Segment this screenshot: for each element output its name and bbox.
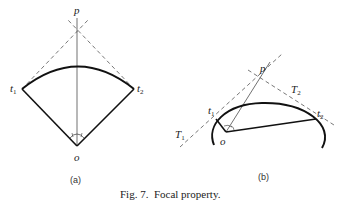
panel-b: p o t1 t2 T1 T2 (b)	[175, 54, 334, 182]
t2-subscript: 2	[320, 113, 324, 121]
point-label-t1: t1	[10, 82, 17, 96]
arc-t1-t2	[22, 67, 134, 90]
panel-a: p o t1 t2 (a)	[10, 4, 144, 185]
t2-subscript: 2	[140, 88, 144, 96]
radius-o-t2	[77, 89, 134, 146]
panel-label-b: (b)	[258, 172, 269, 182]
T2-subscript: 2	[297, 89, 301, 97]
t1-subscript: 1	[211, 110, 215, 118]
tangent-line-t2	[68, 20, 134, 89]
radius-o-t2	[226, 119, 316, 132]
point-label-p: p	[73, 4, 80, 16]
figure-caption: Fig. 7. Focal property.	[120, 188, 221, 200]
T1-subscript: 1	[181, 134, 185, 142]
point-label-t1: t1	[208, 104, 215, 118]
angle-mark-b	[224, 125, 232, 127]
point-label-o: o	[220, 135, 226, 147]
t1-subscript: 1	[13, 88, 17, 96]
angle-mark-left	[70, 134, 77, 138]
point-label-o: o	[74, 151, 80, 163]
tangent-label-T1: T1	[175, 128, 185, 142]
tangent-line-T1	[180, 54, 282, 147]
point-label-t2: t2	[317, 107, 324, 121]
point-label-p: p	[259, 62, 266, 74]
point-label-t2: t2	[137, 82, 144, 96]
tangent-label-T2: T2	[291, 83, 301, 97]
panel-label-a: (a)	[70, 175, 81, 185]
angle-mark-right	[77, 134, 84, 138]
radius-o-t1	[22, 89, 77, 146]
figure-canvas: p o t1 t2 (a) p o t1 t2 T1 T2 (b) Fig. 7…	[0, 0, 346, 204]
tangent-line-t1	[22, 20, 88, 89]
